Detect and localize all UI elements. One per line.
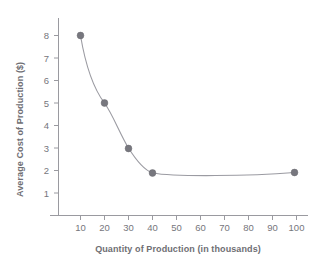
x-tick-label-70: 70 <box>219 222 230 233</box>
y-axis-ticks <box>54 36 59 194</box>
y-tick-label-2: 2 <box>44 165 49 176</box>
x-tick-label-40: 40 <box>147 222 158 233</box>
x-axis-ticks <box>81 216 297 221</box>
y-tick-label-3: 3 <box>44 143 49 154</box>
y-tick-label-1: 1 <box>44 188 49 199</box>
y-tick-label-6: 6 <box>44 75 49 86</box>
data-point <box>125 145 132 152</box>
y-axis-tick-labels: 8 7 6 5 4 3 2 1 <box>44 30 49 199</box>
y-axis-title: Average Cost of Production ($) <box>15 62 25 197</box>
chart-container: 8 7 6 5 4 3 2 1 10 20 30 40 <box>0 0 331 271</box>
line-chart: 8 7 6 5 4 3 2 1 10 20 30 40 <box>0 0 331 271</box>
x-axis-tick-labels: 10 20 30 40 50 60 70 80 90 100 <box>75 222 304 233</box>
y-tick-label-8: 8 <box>44 30 49 41</box>
data-point <box>291 169 298 176</box>
data-point <box>101 100 108 107</box>
y-tick-label-4: 4 <box>44 120 49 131</box>
data-point <box>77 32 84 39</box>
y-tick-label-7: 7 <box>44 53 49 64</box>
x-tick-label-30: 30 <box>123 222 134 233</box>
x-tick-label-60: 60 <box>195 222 206 233</box>
data-series-line <box>81 36 295 176</box>
x-tick-label-100: 100 <box>289 222 305 233</box>
data-series-markers <box>77 32 298 176</box>
data-point <box>149 170 156 177</box>
y-tick-label-5: 5 <box>44 98 49 109</box>
x-axis-title: Quantity of Production (in thousands) <box>95 244 261 254</box>
x-tick-label-10: 10 <box>75 222 86 233</box>
x-tick-label-90: 90 <box>267 222 278 233</box>
x-tick-label-50: 50 <box>171 222 182 233</box>
x-tick-label-80: 80 <box>243 222 254 233</box>
x-tick-label-20: 20 <box>99 222 110 233</box>
